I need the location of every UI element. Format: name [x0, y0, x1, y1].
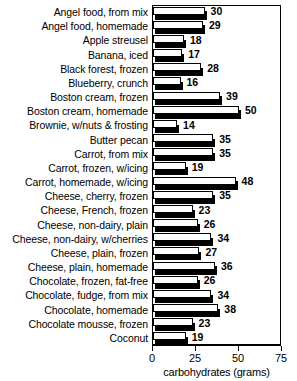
bar-value-label: 23 [199, 204, 211, 217]
bar-body [153, 63, 201, 71]
bar-body [153, 92, 220, 100]
bar [153, 120, 179, 133]
bar-body [153, 21, 203, 29]
bar [153, 276, 200, 289]
bar [153, 233, 213, 246]
bar [153, 106, 241, 119]
bar-body [153, 332, 186, 340]
x-axis-tick-label: 75 [266, 352, 296, 364]
bar-body [153, 233, 211, 241]
bar-value-label: 29 [209, 19, 221, 32]
bar [153, 63, 203, 76]
bar-body [153, 134, 213, 142]
bar [153, 162, 188, 175]
bar [153, 35, 186, 48]
bar-value-label: 27 [205, 246, 217, 259]
bar-value-label: 14 [183, 119, 195, 132]
bar-value-label: 38 [224, 303, 236, 316]
bar-value-label: 19 [192, 161, 204, 174]
bar-body [153, 77, 181, 85]
bar-body [153, 191, 213, 199]
bar-body [153, 120, 177, 128]
bar [153, 77, 183, 90]
bar-body [153, 148, 213, 156]
bar-body [153, 276, 198, 284]
bar-value-label: 35 [219, 147, 231, 160]
bar-value-label: 39 [226, 90, 238, 103]
bar-body [153, 7, 205, 15]
bar [153, 318, 195, 331]
bar [153, 134, 215, 147]
bar-value-label: 18 [190, 34, 202, 47]
x-axis-title: carbohydrates (grams) [152, 366, 281, 378]
bar-rows: Angel food, from mix30Angel food, homema… [0, 5, 297, 345]
bar-value-label: 48 [242, 175, 254, 188]
bar [153, 191, 215, 204]
bar-value-label: 26 [204, 274, 216, 287]
bar-body [153, 162, 186, 170]
bar-value-label: 26 [204, 218, 216, 231]
bar [153, 247, 201, 260]
bar [153, 92, 222, 105]
x-axis-tick [238, 346, 239, 351]
bar-category-label: Coconut [110, 331, 148, 347]
bar-value-label: 34 [217, 289, 229, 302]
x-axis-tick-label: 50 [223, 352, 253, 364]
bar-body [153, 262, 215, 270]
bar-body [153, 247, 199, 255]
bar-body [153, 106, 239, 114]
bar [153, 332, 188, 345]
bar-value-label: 36 [221, 260, 233, 273]
bar-body [153, 290, 211, 298]
bar-body [153, 177, 236, 185]
bar [153, 177, 238, 190]
bar-body [153, 304, 218, 312]
bar [153, 7, 207, 20]
bar-body [153, 219, 198, 227]
bar-value-label: 35 [219, 133, 231, 146]
bar-value-label: 30 [211, 5, 223, 18]
bar [153, 290, 213, 303]
bar-value-label: 35 [219, 189, 231, 202]
bar-value-label: 17 [188, 48, 200, 61]
bar [153, 262, 217, 275]
bar-body [153, 49, 182, 57]
bar [153, 219, 200, 232]
bar-body [153, 205, 193, 213]
bar-body [153, 318, 193, 326]
x-axis-tick [281, 346, 282, 351]
bar-value-label: 23 [199, 317, 211, 330]
x-axis-tick-label: 0 [137, 352, 167, 364]
bar-chart: Angel food, from mix30Angel food, homema… [0, 0, 297, 381]
bar-value-label: 19 [192, 331, 204, 344]
bar [153, 148, 215, 161]
bar [153, 304, 220, 317]
bar-body [153, 35, 184, 43]
x-axis-tick [195, 346, 196, 351]
x-axis-tick [152, 346, 153, 351]
bar [153, 21, 205, 34]
bar-value-label: 50 [245, 104, 257, 117]
bar [153, 205, 195, 218]
x-axis-line [152, 345, 281, 346]
bar-value-label: 16 [187, 76, 199, 89]
bar [153, 49, 184, 62]
x-axis-tick-label: 25 [180, 352, 210, 364]
bar-value-label: 28 [207, 62, 219, 75]
bar-value-label: 34 [217, 232, 229, 245]
